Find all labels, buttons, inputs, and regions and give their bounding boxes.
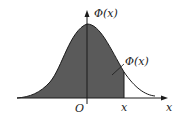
y-axis-label: Φ(x) xyxy=(94,7,118,20)
shaded-area xyxy=(17,24,124,98)
origin-label: O xyxy=(75,102,84,115)
x-axis-arrow-icon xyxy=(161,96,168,101)
normal-cdf-diagram: Φ(x) Φ(x) O x x xyxy=(0,0,182,121)
x-marker-label: x xyxy=(121,101,128,114)
area-label: Φ(x) xyxy=(125,55,149,68)
y-axis-arrow-icon xyxy=(85,10,90,17)
x-axis-label: x xyxy=(166,101,173,114)
